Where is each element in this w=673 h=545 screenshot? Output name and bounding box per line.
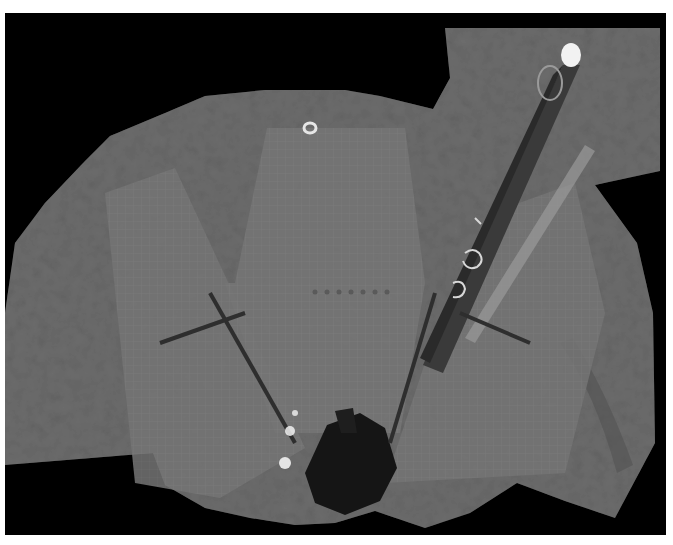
solar-panel-rear xyxy=(235,128,425,283)
rover-mosaic xyxy=(5,13,666,535)
image-frame xyxy=(5,13,666,535)
